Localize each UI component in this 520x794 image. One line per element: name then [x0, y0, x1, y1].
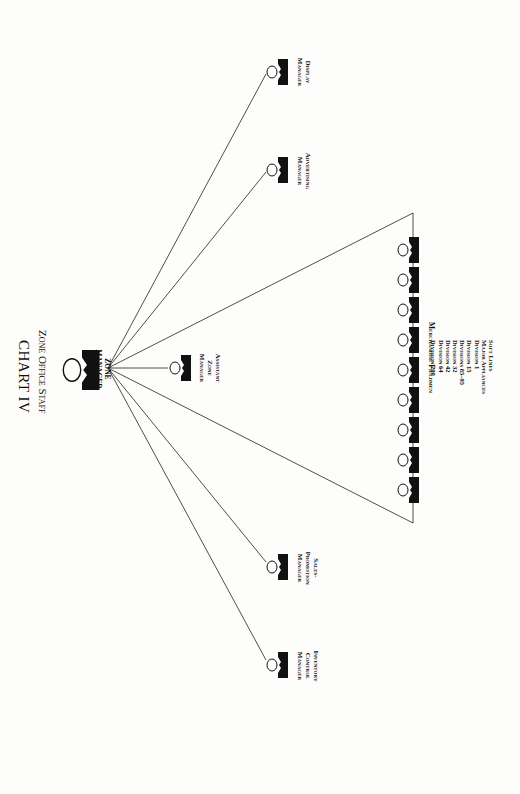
sales-promotion-manager-figure [267, 554, 288, 580]
label-line: Manager [198, 345, 206, 391]
division-item: Division 15 [466, 340, 473, 394]
org-chart-lines [0, 0, 520, 794]
line-display-manager [108, 74, 266, 368]
inventory-control-manager-figure [267, 652, 288, 678]
line-fieldmen-bottom [108, 368, 413, 523]
label-line: Display [304, 50, 312, 94]
line-inventory-control-manager [108, 368, 266, 660]
assistant-zone-manager-label: Assistant Zone Manager [198, 345, 222, 391]
division-item: Division 64 [437, 340, 444, 394]
label-line: Manager [296, 545, 304, 591]
division-item: Divisions 85–95 [459, 340, 466, 394]
sales-promotion-manager-label: Sales- Promotion Manager [296, 545, 320, 591]
label-line: Control [304, 643, 312, 689]
label-line: Manager [296, 148, 304, 194]
inventory-control-manager-label: Inventory Control Manager [296, 643, 320, 689]
division-item: Division 32 [452, 340, 459, 394]
label-line: Promotion [304, 545, 312, 591]
label-line: Sales- [312, 545, 320, 591]
zone-manager-label: ZONE MANAGER [94, 344, 112, 394]
advertising-manager-figure [267, 157, 288, 183]
label-line: Inventory [312, 643, 320, 689]
zone-manager-label-line2: MANAGER [94, 344, 103, 394]
division-list: Soft Lines Major Appliances Division 1 D… [430, 340, 495, 394]
chart-title: CHART IV [15, 340, 32, 413]
connector-lines [108, 74, 413, 660]
display-manager-figure [267, 59, 288, 85]
label-line: Zone [206, 345, 214, 391]
chart-subtitle: Zone Office Staff [37, 330, 49, 413]
division-item: Major Appliances [481, 340, 488, 394]
label-line: Manager [296, 50, 304, 94]
division-item: Division 1 [473, 340, 480, 394]
label-line: Assistant [214, 345, 222, 391]
display-manager-label: Display Manager [296, 50, 312, 94]
advertising-manager-label: Advertising Manager [296, 148, 312, 194]
assistant-zone-manager-figure [170, 355, 191, 381]
line-advertising-manager [108, 172, 266, 368]
division-item: Division 42 [445, 340, 452, 394]
division-item: Division 200 [430, 340, 437, 394]
line-fieldmen-top [108, 213, 413, 368]
label-line: Manager [296, 643, 304, 689]
fieldmen-figures [398, 237, 419, 503]
division-item: Soft Lines [488, 340, 495, 394]
label-line: Advertising [304, 148, 312, 194]
line-sales-promotion-manager [108, 368, 266, 562]
zone-manager-label-line1: ZONE [103, 344, 112, 394]
